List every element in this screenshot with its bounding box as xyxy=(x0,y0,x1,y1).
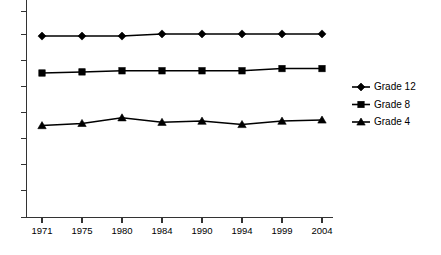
data-point-marker xyxy=(199,68,205,74)
data-point-marker xyxy=(159,68,165,74)
x-tick-label: 1999 xyxy=(271,225,292,236)
x-tick-label: 1994 xyxy=(231,225,252,236)
square-marker-icon xyxy=(358,101,364,107)
chart-container: 19711975198019841990199419992004 Grade 1… xyxy=(0,0,441,255)
data-point-marker xyxy=(39,70,45,76)
x-tick-label: 1990 xyxy=(191,225,212,236)
legend-label: Grade 8 xyxy=(374,99,411,110)
x-tick-label: 1984 xyxy=(151,225,172,236)
legend-label: Grade 12 xyxy=(374,81,416,92)
x-tick-label: 2004 xyxy=(311,225,332,236)
data-point-marker xyxy=(239,68,245,74)
data-point-marker xyxy=(319,65,325,71)
data-point-marker xyxy=(119,68,125,74)
x-tick-label: 1980 xyxy=(111,225,132,236)
x-tick-label: 1971 xyxy=(31,225,52,236)
legend-label: Grade 4 xyxy=(374,116,411,127)
x-tick-label: 1975 xyxy=(71,225,92,236)
line-chart: 19711975198019841990199419992004 Grade 1… xyxy=(0,0,441,255)
chart-legend: Grade 12Grade 8Grade 4 xyxy=(352,81,416,127)
data-point-marker xyxy=(279,65,285,71)
data-point-marker xyxy=(79,69,85,75)
